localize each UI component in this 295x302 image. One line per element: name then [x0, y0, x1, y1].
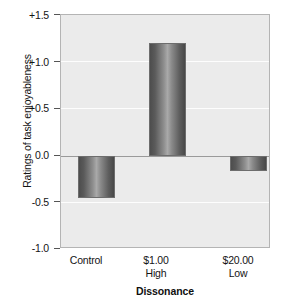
- x-tick-label-control-line1: Control: [46, 254, 126, 267]
- x-tick-label-twenty-dollar-line1: $20.00: [198, 254, 278, 267]
- plot-area: [60, 14, 270, 248]
- y-tick-label-3: +0.5: [1, 102, 49, 114]
- x-tick-label-one-dollar-line2: High: [116, 267, 196, 280]
- gridline-neg0.5: [61, 202, 269, 203]
- x-tick-label-one-dollar: $1.00 High: [116, 254, 196, 279]
- x-axis-title: Dissonance: [60, 285, 270, 297]
- y-tick-label-1: +1.5: [1, 9, 49, 21]
- bar-one-dollar-high: [149, 43, 186, 156]
- bar-control: [78, 156, 115, 198]
- y-tick-label-6: -1.0: [1, 242, 49, 254]
- x-tick-label-twenty-dollar: $20.00 Low: [198, 254, 278, 279]
- x-tick-label-one-dollar-line1: $1.00: [116, 254, 196, 267]
- y-tick-mark-6: [54, 248, 60, 249]
- y-tick-label-2: +1.0: [1, 56, 49, 68]
- bar-chart-figure: Ratings of task enjoyableness +1.5 +1.0 …: [0, 0, 295, 302]
- x-tick-label-twenty-dollar-line2: Low: [198, 267, 278, 280]
- y-tick-label-5: -0.5: [1, 196, 49, 208]
- y-tick-label-4: 0.0: [1, 149, 49, 161]
- bar-twenty-dollar-low: [230, 156, 267, 171]
- y-axis-title: Ratings of task enjoyableness: [21, 21, 33, 221]
- x-tick-label-control: Control: [46, 254, 126, 267]
